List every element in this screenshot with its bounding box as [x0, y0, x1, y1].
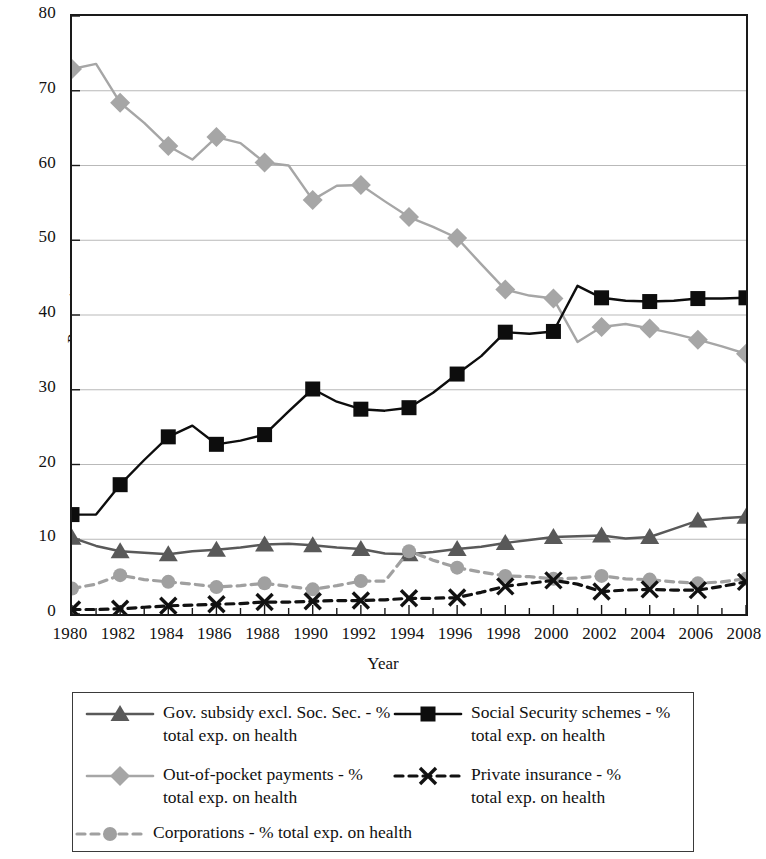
data-point-circle — [258, 576, 272, 590]
data-point-square — [594, 290, 609, 305]
data-point-circle — [113, 568, 127, 582]
x-tick-label: 2006 — [670, 624, 722, 644]
legend-marker-triangle-icon — [83, 702, 157, 724]
legend-item: Corporations - % total exp. on health — [73, 821, 412, 844]
data-point-circle — [209, 580, 223, 594]
y-tick-label: 50 — [8, 227, 56, 247]
data-point-square — [161, 429, 176, 444]
data-point-square — [113, 477, 128, 492]
data-point-circle — [595, 569, 609, 583]
data-point-triangle — [737, 508, 747, 524]
data-point-circle — [161, 575, 175, 589]
data-point-diamond — [399, 207, 419, 227]
data-point-circle — [72, 582, 79, 596]
x-tick-label: 1982 — [92, 624, 144, 644]
data-point-square — [305, 382, 320, 397]
legend-label: Out-of-pocket payments - %total exp. on … — [157, 763, 363, 809]
legend-label-line1: Corporations - % total exp. on health — [153, 821, 412, 844]
series-square — [72, 286, 746, 522]
data-point-square — [257, 427, 272, 442]
legend-label: Gov. subsidy excl. Soc. Sec. - %total ex… — [157, 701, 390, 747]
data-point-diamond — [72, 59, 82, 79]
data-point-square — [498, 325, 513, 340]
legend-label: Private insurance - %total exp. on healt… — [465, 763, 621, 809]
y-tick-marks — [72, 16, 80, 614]
legend-label-line2: total exp. on health — [163, 786, 363, 809]
x-axis-title: Year — [0, 654, 766, 674]
legend-label-line1: Out-of-pocket payments - % — [163, 763, 363, 786]
legend-item: Gov. subsidy excl. Soc. Sec. - %total ex… — [83, 701, 390, 747]
data-point-diamond — [736, 344, 746, 364]
y-tick-label: 30 — [8, 377, 56, 397]
x-tick-label: 1992 — [333, 624, 385, 644]
data-point-circle — [354, 574, 368, 588]
y-tick-label: 70 — [8, 78, 56, 98]
legend-label: Corporations - % total exp. on health — [147, 821, 412, 844]
data-point-diamond — [592, 317, 612, 337]
data-point-square — [421, 707, 436, 722]
data-point-triangle — [592, 527, 611, 543]
data-point-square — [546, 324, 561, 339]
x-tick-label: 1994 — [381, 624, 433, 644]
series-diamond — [72, 59, 746, 364]
chart-legend: Gov. subsidy excl. Soc. Sec. - %total ex… — [72, 692, 694, 852]
legend-item: Out-of-pocket payments - %total exp. on … — [83, 763, 363, 809]
y-tick-label: 20 — [8, 452, 56, 472]
legend-marker-square-icon — [391, 702, 465, 724]
data-point-diamond — [543, 289, 563, 309]
data-point-square — [209, 437, 224, 452]
x-tick-label: 1984 — [140, 624, 192, 644]
data-point-circle — [450, 561, 464, 575]
legend-marker-x-icon — [391, 764, 465, 786]
legend-label-line1: Social Security schemes - % — [471, 701, 670, 724]
legend-label-line1: Gov. subsidy excl. Soc. Sec. - % — [163, 701, 390, 724]
legend-item: Private insurance - %total exp. on healt… — [391, 763, 621, 809]
data-point-square — [642, 294, 657, 309]
legend-label-line2: total exp. on health — [163, 724, 390, 747]
x-tick-label: 1996 — [429, 624, 481, 644]
data-point-diamond — [303, 190, 323, 210]
y-tick-label: 60 — [8, 153, 56, 173]
data-point-diamond — [351, 175, 371, 195]
data-point-circle — [103, 827, 117, 841]
x-tick-label: 1998 — [477, 624, 529, 644]
x-tick-label: 1990 — [285, 624, 337, 644]
legend-label-line2: total exp. on health — [471, 724, 670, 747]
line-chart: Percentage 01020304050607080 19801982198… — [0, 0, 766, 690]
legend-item: Social Security schemes - %total exp. on… — [391, 701, 670, 747]
data-point-square — [72, 507, 80, 522]
data-point-diamond — [688, 330, 708, 350]
x-tick-label: 1986 — [188, 624, 240, 644]
data-point-square — [402, 400, 417, 415]
y-tick-label: 80 — [8, 3, 56, 23]
legend-label-line2: total exp. on health — [471, 786, 621, 809]
y-tick-label: 10 — [8, 526, 56, 546]
x-tick-label: 2002 — [574, 624, 626, 644]
data-point-square — [739, 290, 747, 305]
data-point-diamond — [640, 318, 660, 338]
x-tick-label: 1980 — [44, 624, 96, 644]
legend-label: Social Security schemes - %total exp. on… — [465, 701, 670, 747]
data-point-triangle — [72, 529, 82, 545]
x-tick-label: 2004 — [622, 624, 674, 644]
data-point-x — [72, 602, 80, 614]
x-tick-label: 2000 — [525, 624, 577, 644]
plot-area — [70, 14, 748, 616]
legend-marker-diamond-icon — [83, 764, 157, 786]
chart-page: Percentage 01020304050607080 19801982198… — [0, 0, 766, 859]
x-tick-label: 1988 — [237, 624, 289, 644]
y-tick-label: 0 — [8, 601, 56, 621]
data-point-circle — [402, 544, 416, 558]
data-point-square — [353, 402, 368, 417]
x-tick-label: 2008 — [718, 624, 766, 644]
data-point-square — [690, 291, 705, 306]
data-point-diamond — [110, 766, 130, 786]
data-point-square — [450, 367, 465, 382]
y-tick-label: 40 — [8, 302, 56, 322]
chart-svg — [72, 16, 746, 614]
legend-label-line1: Private insurance - % — [471, 763, 621, 786]
data-point-triangle — [640, 528, 659, 544]
legend-marker-circle-icon — [73, 822, 147, 844]
